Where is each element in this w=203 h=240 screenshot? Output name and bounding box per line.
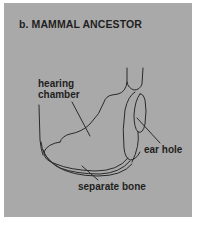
hearing-chamber-label-line1: hearing [38,78,74,89]
ear-hole-label: ear hole [144,144,182,155]
ear-connector [132,132,138,162]
ear-outer-loop [123,92,140,160]
ear-hole-leader [137,118,160,143]
upper-tube-outline [127,68,143,90]
hearing-chamber-label-line2: chamber [38,89,80,100]
separate-bone-label: separate bone [78,181,146,192]
